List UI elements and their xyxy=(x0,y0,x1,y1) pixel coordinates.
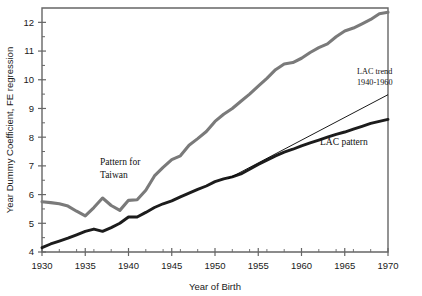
y-axis-title: Year Dummy Coefficient, FE regression xyxy=(4,47,15,213)
x-tick-label: 1950 xyxy=(204,260,225,271)
x-tick-label: 1955 xyxy=(248,260,269,271)
series-taiwan-line xyxy=(42,12,388,216)
x-tick-label: 1970 xyxy=(377,260,398,271)
line-chart: 4567891011121930193519401945195019551960… xyxy=(0,0,422,296)
annotation-lac-pattern-label: LAC pattern xyxy=(320,137,368,147)
y-tick-label: 10 xyxy=(23,74,34,85)
y-tick-label: 12 xyxy=(23,17,34,28)
x-tick-label: 1960 xyxy=(291,260,312,271)
annotation-lac-trend-line1: LAC trend xyxy=(357,66,392,77)
axes xyxy=(38,8,388,256)
x-tick-label: 1945 xyxy=(161,260,182,271)
y-tick-label: 8 xyxy=(29,132,34,143)
data-series xyxy=(42,12,388,247)
annotation-lac-pattern: LAC pattern xyxy=(320,137,368,147)
x-axis-title: Year of Birth xyxy=(189,281,241,292)
annotation-taiwan: Pattern for Taiwan xyxy=(100,156,140,182)
y-tick-label: 6 xyxy=(29,189,34,200)
x-tick-label: 1935 xyxy=(75,260,96,271)
y-tick-label: 7 xyxy=(29,160,34,171)
y-tick-label: 4 xyxy=(29,246,34,257)
x-tick-label: 1940 xyxy=(118,260,139,271)
chart-container: 4567891011121930193519401945195019551960… xyxy=(0,0,422,296)
annotation-lac-trend-line2: 1940-1960 xyxy=(357,77,392,88)
y-tick-label: 9 xyxy=(29,103,34,114)
annotation-taiwan-line1: Pattern for xyxy=(100,156,140,169)
x-tick-label: 1930 xyxy=(31,260,52,271)
annotation-taiwan-line2: Taiwan xyxy=(100,169,140,182)
annotation-lac-trend: LAC trend 1940-1960 xyxy=(357,66,392,88)
axis-labels: 4567891011121930193519401945195019551960… xyxy=(4,17,399,292)
y-tick-label: 5 xyxy=(29,218,34,229)
x-tick-label: 1965 xyxy=(334,260,355,271)
y-tick-label: 11 xyxy=(24,45,34,56)
